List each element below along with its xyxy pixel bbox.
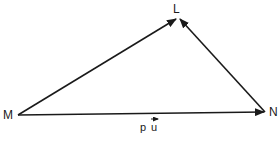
vector-mn-pu (18, 112, 264, 115)
point-label-l: L (173, 3, 180, 15)
point-label-n: N (269, 106, 278, 118)
vector-label-u: u (151, 122, 158, 133)
vector-nl (180, 19, 265, 112)
vector-triangle-diagram: L M N p u (0, 0, 280, 144)
vector-ml (18, 19, 176, 115)
point-label-m: M (3, 109, 13, 121)
vector-label-p: p (140, 122, 147, 133)
